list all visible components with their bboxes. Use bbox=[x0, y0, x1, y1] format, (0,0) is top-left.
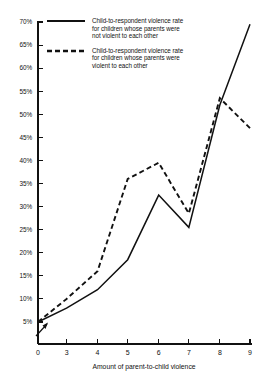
chart-container: 5%10%15%20%25%30%35%40%45%50%55%60%65%70… bbox=[0, 0, 273, 376]
y-axis-tick-label: 5% bbox=[23, 318, 32, 325]
legend-entry-not-violent: Child-to-respondent violence rate for ch… bbox=[47, 16, 242, 40]
legend-entry-violent: Child-to-respondent violence rate for ch… bbox=[47, 46, 242, 70]
legend-label-violent: Child-to-respondent violence rate for ch… bbox=[92, 46, 183, 70]
legend-label-not-violent: Child-to-respondent violence rate for ch… bbox=[92, 16, 183, 40]
legend-swatch-dashed-line-icon bbox=[47, 46, 87, 58]
y-axis-tick-label: 50% bbox=[20, 111, 33, 118]
legend-swatch-solid-line-icon bbox=[47, 16, 87, 28]
y-axis-tick-label: 10% bbox=[20, 295, 33, 302]
y-axis-tick-label: 70% bbox=[20, 18, 33, 25]
series-line-parents-violent bbox=[38, 98, 250, 322]
x-axis: 03456789 bbox=[36, 339, 252, 356]
x-axis-tick-label: 9 bbox=[248, 349, 252, 356]
y-axis-tick-label: 15% bbox=[20, 272, 33, 279]
x-axis-tick-label: 6 bbox=[157, 349, 161, 356]
y-axis-tick-label: 35% bbox=[20, 180, 33, 187]
y-axis: 5%10%15%20%25%30%35%40%45%50%55%60%65%70… bbox=[20, 18, 44, 344]
x-axis-title: Amount of parent-to-child violence bbox=[92, 363, 195, 371]
y-axis-tick-label: 20% bbox=[20, 249, 33, 256]
y-axis-tick-label: 60% bbox=[20, 64, 33, 71]
x-axis-tick-label: 8 bbox=[218, 349, 222, 356]
y-axis-tick-label: 30% bbox=[20, 203, 33, 210]
x-axis-tick-label: 3 bbox=[65, 349, 69, 356]
y-axis-tick-label: 25% bbox=[20, 226, 33, 233]
chart-legend: Child-to-respondent violence rate for ch… bbox=[47, 16, 242, 76]
y-axis-tick-label: 65% bbox=[20, 41, 33, 48]
y-axis-tick-label: 40% bbox=[20, 157, 33, 164]
x-axis-tick-label: 4 bbox=[96, 349, 100, 356]
y-axis-tick-label: 45% bbox=[20, 134, 33, 141]
x-axis-tick-label: 5 bbox=[126, 349, 130, 356]
x-axis-tick-label: 7 bbox=[187, 349, 191, 356]
y-axis-tick-label: 55% bbox=[20, 88, 33, 95]
x-axis-tick-label: 0 bbox=[36, 349, 40, 356]
